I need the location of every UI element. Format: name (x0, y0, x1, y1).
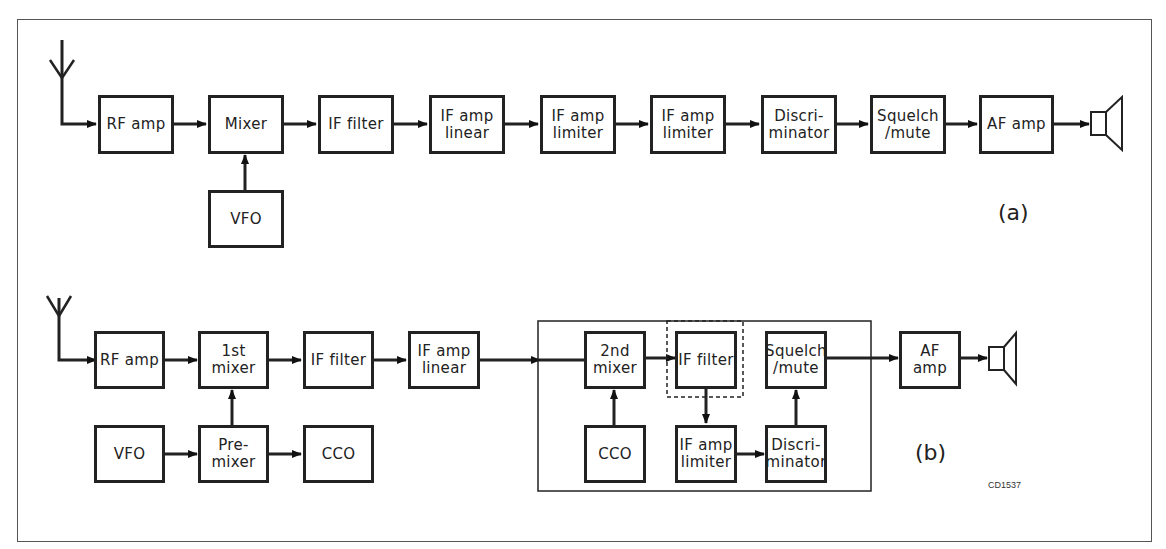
block-vfo: VFO (208, 190, 284, 248)
block-label: CCO (322, 446, 356, 463)
block-discriminator: Discri-minator (765, 425, 827, 483)
block-label: Pre- (218, 437, 248, 454)
block-first-mixer: 1stmixer (198, 331, 269, 389)
block-label: limiter (663, 125, 714, 142)
block-squelch: Squelch/mute (870, 95, 946, 154)
block-label: mixer (593, 360, 637, 377)
speaker-icon (989, 333, 1016, 384)
block-if-amp-limiter: IF amplimiter (650, 95, 726, 154)
block-mixer: Mixer (208, 95, 284, 154)
block-label: limiter (681, 454, 732, 471)
block-label: limiter (553, 125, 604, 142)
block-second-mixer: 2ndmixer (584, 331, 646, 389)
block-label: Squelch (877, 108, 939, 125)
block-premixer: Pre-mixer (198, 425, 269, 483)
diagram-label-a: (a) (998, 200, 1029, 225)
block-label: minator (766, 454, 827, 471)
block-label: VFO (230, 211, 262, 228)
figure-code: CD1537 (988, 480, 1021, 490)
diagram-label-b: (b) (915, 440, 946, 465)
block-label: mixer (211, 454, 255, 471)
block-label: IF filter (678, 352, 733, 369)
block-label: linear (445, 125, 489, 142)
block-label: IF filter (328, 116, 383, 133)
block-if-filter: IF filter (318, 95, 394, 154)
block-label: mixer (211, 360, 255, 377)
block-af-amp: AF amp (899, 331, 961, 389)
block-label: AF amp (902, 343, 958, 377)
block-rf-amp: RF amp (94, 331, 165, 389)
block-if-amp-linear: IF amplinear (429, 95, 505, 154)
block-label: IF amp (662, 108, 715, 125)
block-label: IF filter (311, 352, 366, 369)
block-label: Discri- (774, 108, 824, 125)
block-af-amp: AF amp (979, 95, 1054, 154)
block-label: 1st (221, 343, 245, 360)
block-if-filter-2: IF filter (675, 331, 737, 389)
block-if-amp-limiter: IF amplimiter (540, 95, 616, 154)
block-label: RF amp (100, 352, 159, 369)
antenna-icon (50, 40, 96, 124)
block-label: VFO (114, 446, 146, 463)
block-label: Discri- (771, 437, 821, 454)
block-if-filter: IF filter (303, 331, 374, 389)
block-label: linear (422, 360, 466, 377)
block-rf-amp: RF amp (98, 95, 174, 154)
block-label: 2nd (600, 343, 629, 360)
block-squelch: Squelch/mute (765, 331, 827, 389)
block-label: RF amp (107, 116, 166, 133)
block-if-amp-limiter: IF amplimiter (675, 425, 737, 483)
block-label: Mixer (225, 116, 267, 133)
block-label: IF amp (552, 108, 605, 125)
block-label: /mute (885, 125, 931, 142)
block-label: Squelch (765, 343, 827, 360)
block-vfo: VFO (94, 425, 165, 483)
block-label: AF amp (987, 116, 1046, 133)
block-label: /mute (773, 360, 819, 377)
block-label: IF amp (441, 108, 494, 125)
antenna-icon (47, 296, 96, 360)
block-label: CCO (598, 446, 632, 463)
block-label: IF amp (418, 343, 471, 360)
block-label: minator (769, 125, 830, 142)
connections-layer (0, 0, 1166, 549)
block-cco: CCO (303, 425, 374, 483)
block-discriminator: Discri-minator (761, 95, 837, 154)
block-if-amp-linear: IF amplinear (408, 331, 480, 389)
block-cco-2: CCO (584, 425, 646, 483)
speaker-icon (1091, 97, 1122, 150)
block-label: IF amp (680, 437, 733, 454)
